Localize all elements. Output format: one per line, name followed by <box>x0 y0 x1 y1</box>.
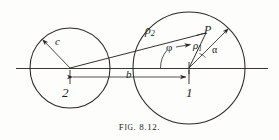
rho2-line <box>70 33 206 68</box>
label-alpha: α <box>212 45 217 55</box>
label-rho1-subscript: 1 <box>198 44 202 53</box>
label-point-p: P <box>204 24 211 36</box>
label-rho2-subscript: 2 <box>151 29 155 38</box>
label-phi: φ <box>166 42 172 53</box>
diagram-canvas <box>0 0 279 140</box>
caption-number: . 8.12. <box>134 122 161 132</box>
label-circle-one: 1 <box>186 86 193 99</box>
figure-caption: FIG. 8.12. <box>0 122 279 132</box>
label-radius-c: c <box>55 36 60 47</box>
label-circle-two: 2 <box>62 86 69 99</box>
label-rho2: ρ2 <box>145 24 155 38</box>
caption-smallcaps: IG <box>124 123 133 132</box>
label-rho1: ρ1 <box>193 40 202 53</box>
phi-angle-pointer <box>176 45 191 48</box>
label-distance-b: b <box>126 69 132 80</box>
figure-8-12: c ρ2 P ρ1 α φ b 2 1 FIG. 8.12. <box>0 0 279 140</box>
